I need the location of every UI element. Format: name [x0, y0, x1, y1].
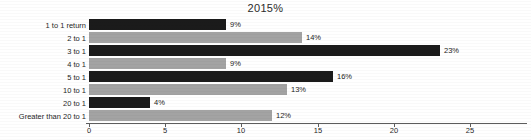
- category-label: 10 to 1: [0, 85, 86, 96]
- x-axis-tick-label: 20: [382, 126, 406, 136]
- bar-row: 4%: [89, 97, 470, 108]
- category-label: 20 to 1: [0, 98, 86, 109]
- bar-value-label: 16%: [337, 72, 352, 82]
- chart-title: 2015%: [0, 2, 531, 14]
- x-axis-tick-label: 10: [229, 126, 253, 136]
- category-label: 2 to 1: [0, 33, 86, 44]
- bar-row: 9%: [89, 58, 470, 69]
- bar-row: 9%: [89, 19, 470, 30]
- bar-value-label: 9%: [230, 20, 241, 30]
- bar: [89, 84, 287, 95]
- bar: [89, 32, 302, 43]
- bar: [89, 58, 226, 69]
- category-label: 5 to 1: [0, 72, 86, 83]
- bar-value-label: 9%: [230, 59, 241, 69]
- x-axis-line: [86, 123, 527, 124]
- bar: [89, 71, 333, 82]
- category-label: 3 to 1: [0, 46, 86, 57]
- category-label: 1 to 1 return: [0, 20, 86, 31]
- x-axis-tick-label: 0: [77, 126, 101, 136]
- category-label: 4 to 1: [0, 59, 86, 70]
- bar-value-label: 12%: [276, 111, 291, 121]
- x-axis-tick-label: 5: [153, 126, 177, 136]
- bar-chart: 2015% 1 to 1 return2 to 13 to 14 to 15 t…: [0, 0, 531, 140]
- bar-row: 13%: [89, 84, 470, 95]
- bar-value-label: 4%: [154, 98, 165, 108]
- x-axis-tick-label: 15: [306, 126, 330, 136]
- bar-value-label: 14%: [306, 33, 321, 43]
- bar-row: 14%: [89, 32, 470, 43]
- bar: [89, 97, 150, 108]
- plot-area: 9%14%23%9%16%13%4%12%: [89, 19, 470, 123]
- bar-value-label: 23%: [444, 46, 459, 56]
- bar: [89, 45, 440, 56]
- x-axis-tick-label: 25: [458, 126, 482, 136]
- bar-row: 23%: [89, 45, 470, 56]
- category-label: Greater than 20 to 1: [0, 111, 86, 122]
- bar-row: 12%: [89, 110, 470, 121]
- bar-row: 16%: [89, 71, 470, 82]
- bar-value-label: 13%: [291, 85, 306, 95]
- category-axis: 1 to 1 return2 to 13 to 14 to 15 to 110 …: [0, 19, 86, 123]
- bar: [89, 110, 272, 121]
- bar: [89, 19, 226, 30]
